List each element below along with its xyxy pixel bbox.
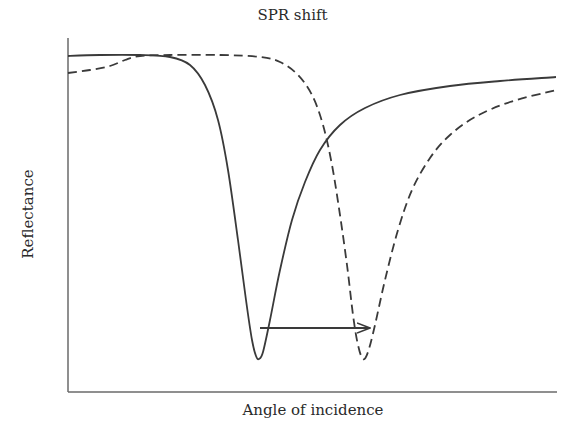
plot-area xyxy=(0,0,585,438)
spr-shift-chart: SPR shift Reflectance Angle of incidence xyxy=(0,0,585,438)
dashed-shifted-reflectance-curve xyxy=(68,55,556,359)
solid-reflectance-curve xyxy=(68,55,556,359)
